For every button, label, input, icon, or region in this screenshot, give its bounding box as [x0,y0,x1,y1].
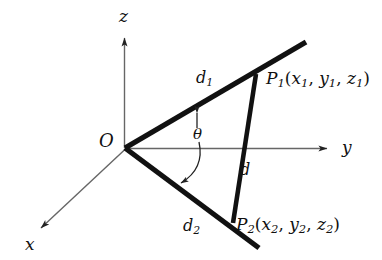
ray-d1 [125,42,306,148]
p1-coord-z: z [347,68,356,88]
d2-label: d2 [183,218,200,237]
d1-label: d1 [196,70,213,89]
p2-coord-z: z [317,214,326,234]
p1-subscript: 1 [277,76,284,90]
p2-close-paren: ) [333,214,340,234]
d1-letter: d [196,68,206,87]
p2-coord-x: x [261,214,271,234]
x-axis-label: x [25,236,35,253]
d-label: d [240,162,250,178]
p2-coord-y: y [289,214,299,234]
d2-subscript: 2 [193,224,200,237]
p1-comma-2: , [336,68,347,88]
z-axis-label: z [119,8,128,25]
p2-comma-2: , [306,214,317,234]
p1-comma-1: , [308,68,319,88]
d1-subscript: 1 [206,76,213,89]
theta-label: θ [193,127,202,142]
p1-close-paren: ) [363,68,370,88]
p2-subscript: 2 [247,222,254,236]
p2-comma-1: , [278,214,289,234]
p1-coord-x: x [291,68,301,88]
p1-name: P [266,68,277,88]
p2-name: P [236,214,247,234]
p1-coord-y: y [319,68,329,88]
origin-label: O [99,132,114,150]
x-axis [41,149,126,229]
coordinate-diagram: z y x O d1 d2 d θ P1(x1, y1, z1) P2(x2, … [0,0,382,260]
d2-letter: d [183,216,193,235]
y-axis-label: y [342,139,352,156]
p1-label: P1(x1, y1, z1) [266,70,370,90]
p2-label: P2(x2, y2, z2) [236,216,340,236]
